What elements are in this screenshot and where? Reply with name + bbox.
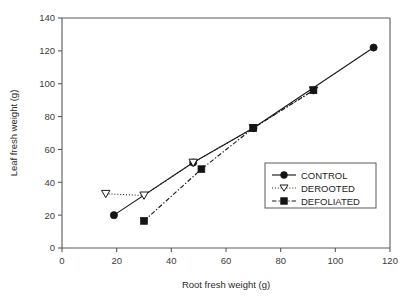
data-point-defoliated [310,87,317,94]
y-axis-title: Leaf fresh weight (g) [8,90,19,177]
y-tick-label: 80 [44,111,55,122]
y-tick-label: 120 [39,45,55,56]
legend-swatch-control-marker [281,172,288,179]
x-tick-label: 40 [166,255,177,266]
data-point-defoliated [141,217,148,224]
y-tick-label: 140 [39,12,55,23]
legend-label-defoliated: DEFOLIATED [301,196,360,207]
figure-container: 020406080100120140 020406080100120 Root … [0,0,409,306]
data-point-control [370,44,377,51]
y-tick-label: 0 [50,242,55,253]
scatter-plot: 020406080100120140 020406080100120 Root … [0,0,409,306]
y-axis-ticks: 020406080100120140 [39,12,62,253]
x-tick-label: 60 [221,255,232,266]
data-point-defoliated [198,166,205,173]
x-tick-label: 0 [59,255,64,266]
data-point-control [110,212,117,219]
legend-swatch-defoliated-marker [281,198,288,205]
y-tick-label: 20 [44,210,55,221]
y-tick-label: 60 [44,144,55,155]
x-tick-label: 80 [275,255,286,266]
x-tick-label: 100 [327,255,343,266]
x-tick-label: 120 [382,255,398,266]
legend-label-derooted: DEROOTED [301,183,355,194]
x-axis-ticks: 020406080100120 [59,248,398,266]
y-tick-label: 40 [44,177,55,188]
y-tick-label: 100 [39,78,55,89]
x-axis-title: Root fresh weight (g) [182,279,270,290]
legend-label-control: CONTROL [301,170,347,181]
data-point-defoliated [250,125,257,132]
legend: CONTROL DEROOTED DEFOLIATED [265,163,376,208]
x-tick-label: 20 [111,255,122,266]
